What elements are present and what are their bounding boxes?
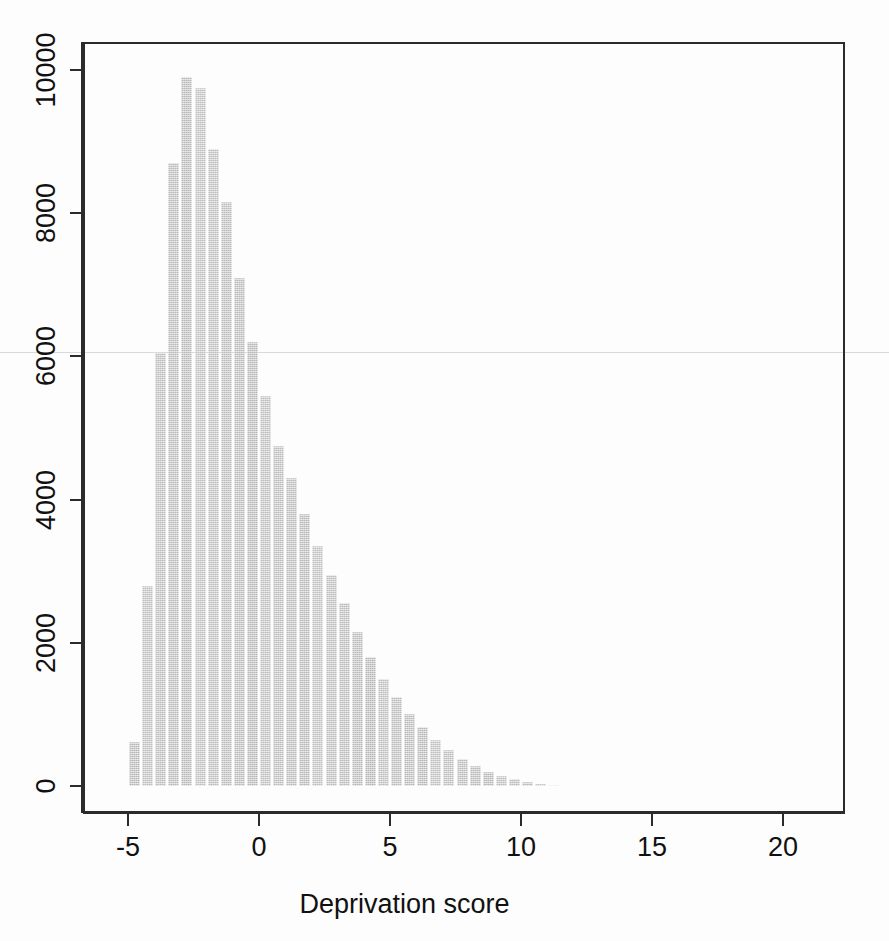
histogram-bar	[443, 750, 454, 786]
histogram-bar	[496, 776, 507, 786]
histogram-bar	[522, 782, 533, 786]
y-axis-tick-label: 10000	[46, 70, 47, 71]
histogram-bar	[247, 342, 258, 786]
x-axis-line	[83, 812, 845, 814]
x-axis-tick-label: 15	[637, 832, 667, 863]
histogram-bar	[535, 784, 546, 787]
histogram-bar	[208, 149, 219, 786]
histogram-bar	[168, 163, 179, 786]
histogram-bar	[155, 353, 166, 786]
histogram-bar	[142, 586, 153, 786]
y-axis-tick-label: 2000	[46, 643, 47, 644]
histogram-bar	[470, 766, 481, 786]
x-axis-tick	[520, 814, 522, 826]
y-axis-tick-label-text: 2000	[31, 613, 62, 673]
histogram-bar	[312, 546, 323, 786]
y-axis-tick-label: 8000	[46, 213, 47, 214]
x-axis-tick	[258, 814, 260, 826]
x-axis-tick	[127, 814, 129, 826]
histogram-bar	[457, 759, 468, 786]
x-axis-tick	[651, 814, 653, 826]
histogram-bar	[326, 575, 337, 786]
histogram-bar	[430, 740, 441, 786]
y-axis-tick-label-text: 10000	[31, 32, 62, 107]
x-axis-tick-label: 5	[382, 832, 397, 863]
y-axis-tick	[70, 785, 82, 787]
histogram-bar	[221, 202, 232, 786]
histogram-bar	[378, 679, 389, 786]
y-axis-line	[81, 42, 83, 813]
histogram-bar	[391, 697, 402, 787]
histogram-bar	[181, 77, 192, 786]
x-axis-tick	[389, 814, 391, 826]
histogram-bar	[548, 785, 559, 786]
histogram-bar	[195, 88, 206, 786]
y-axis-tick-label: 6000	[46, 356, 47, 357]
histogram-bar	[483, 772, 494, 786]
y-axis-tick	[70, 355, 82, 357]
y-axis-tick-label: 4000	[46, 500, 47, 501]
x-axis-title: Deprivation score	[0, 889, 889, 920]
histogram-bar	[273, 446, 284, 786]
x-axis-tick-label: 10	[506, 832, 536, 863]
y-axis-tick-label: 0	[46, 786, 47, 787]
histogram-bar	[286, 478, 297, 786]
y-axis-tick-label-text: 0	[31, 778, 62, 793]
x-axis-tick	[782, 814, 784, 826]
y-axis-tick-label-text: 8000	[31, 183, 62, 243]
histogram-figure: 0200040006000800010000 -505101520 Depriv…	[0, 0, 889, 941]
y-axis-tick	[70, 642, 82, 644]
y-axis-tick-label-text: 4000	[31, 470, 62, 530]
y-axis-tick	[70, 212, 82, 214]
histogram-bar	[129, 742, 140, 786]
histogram-bar	[404, 714, 415, 786]
histogram-bar	[509, 779, 520, 786]
y-axis-tick	[70, 499, 82, 501]
histogram-bar	[260, 396, 271, 786]
histogram-bar	[299, 514, 310, 786]
histogram-bar	[365, 657, 376, 786]
x-axis-tick-label: -5	[116, 832, 140, 863]
x-axis-tick-label: 20	[768, 832, 798, 863]
histogram-bar	[417, 727, 428, 786]
x-axis-tick-label: 0	[251, 832, 266, 863]
histogram-bar	[339, 603, 350, 786]
histogram-bars	[83, 42, 845, 813]
histogram-bar	[352, 632, 363, 786]
x-axis-title-text: Deprivation score	[299, 889, 509, 920]
y-axis-tick	[70, 69, 82, 71]
y-axis-tick-label-text: 6000	[31, 326, 62, 386]
histogram-bar	[234, 278, 245, 786]
